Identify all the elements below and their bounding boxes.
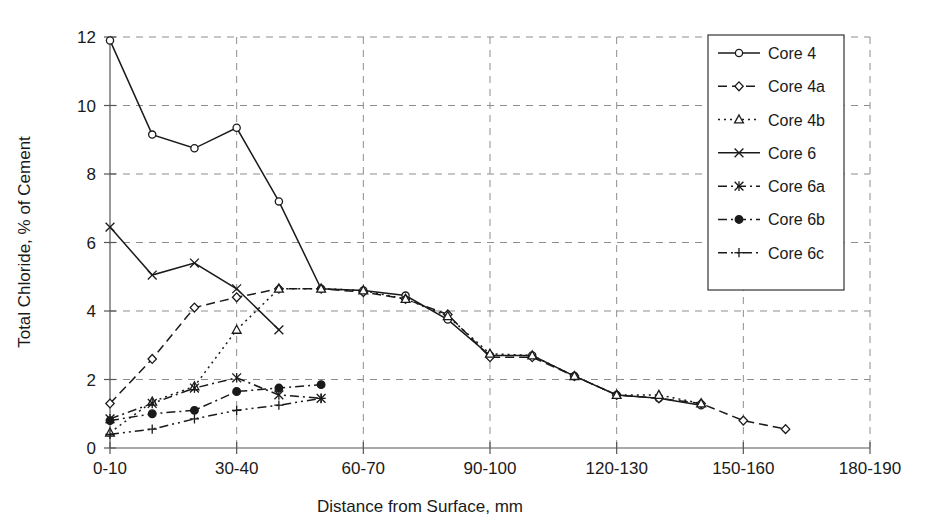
x-tick-label: 150-160	[712, 459, 774, 478]
y-axis-title: Total Chloride, % of Cement	[15, 136, 34, 348]
chart-page: 024681012 0-1030-4060-7090-100120-130150…	[0, 0, 934, 532]
chart-legend: Core 4Core 4aCore 4bCore 6Core 6aCore 6b…	[708, 35, 844, 290]
legend-entry-label: Core 4	[768, 45, 816, 62]
data-point-marker-open-circle	[275, 198, 282, 205]
x-tick-label: 60-70	[342, 459, 385, 478]
x-tick-label: 180-190	[839, 459, 901, 478]
data-point-marker-solid-circle	[317, 381, 325, 389]
chloride-line-chart: 024681012 0-1030-4060-7090-100120-130150…	[0, 0, 934, 532]
legend-entry-label: Core 4a	[768, 78, 825, 95]
data-point-marker-solid-circle	[233, 388, 241, 396]
y-tick-label: 8	[87, 165, 96, 184]
data-point-marker-open-circle	[233, 124, 240, 131]
legend-entry-label: Core 6	[768, 145, 816, 162]
x-tick-label: 90-100	[464, 459, 517, 478]
data-point-marker-open-circle	[735, 49, 742, 56]
data-point-marker-solid-circle	[191, 407, 199, 415]
y-tick-label: 6	[87, 234, 96, 253]
data-point-marker-open-circle	[149, 131, 156, 138]
y-tick-label: 12	[77, 28, 96, 47]
x-tick-label: 30-40	[215, 459, 258, 478]
y-tick-label: 2	[87, 371, 96, 390]
x-axis-title: Distance from Surface, mm	[317, 497, 523, 516]
x-tick-label: 0-10	[93, 459, 127, 478]
x-tick-label: 120-130	[585, 459, 647, 478]
data-point-marker-open-circle	[191, 145, 198, 152]
y-tick-label: 4	[87, 302, 96, 321]
legend-entry-label: Core 6b	[768, 211, 825, 228]
y-tick-label: 0	[87, 439, 96, 458]
legend-entry-label: Core 6c	[768, 245, 824, 262]
data-point-marker-solid-circle	[735, 216, 743, 224]
y-tick-label: 10	[77, 97, 96, 116]
data-point-marker-open-circle	[106, 37, 113, 44]
data-point-marker-solid-circle	[275, 384, 283, 392]
data-point-marker-solid-circle	[148, 410, 156, 418]
legend-entry-label: Core 6a	[768, 178, 825, 195]
legend-entry-label: Core 4b	[768, 112, 825, 129]
data-point-marker-solid-circle	[106, 417, 114, 425]
